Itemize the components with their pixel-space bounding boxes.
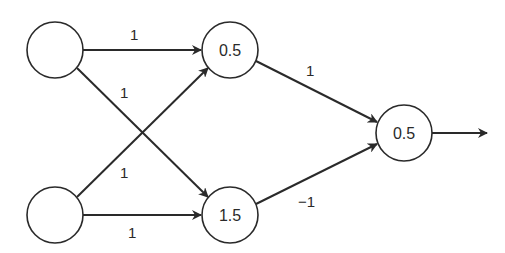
hidden-node-1-threshold: 0.5 — [219, 42, 241, 59]
neural-network-diagram: 1 1 1 1 1 −1 0.5 1.5 0.5 — [0, 0, 505, 253]
weight-label-in2-h2: 1 — [128, 224, 136, 241]
hidden-node-2-threshold: 1.5 — [219, 207, 241, 224]
hidden-node-2: 1.5 — [202, 187, 258, 243]
edge-h2-out — [256, 144, 377, 204]
output-node: 0.5 — [376, 105, 432, 161]
output-node-threshold: 0.5 — [393, 125, 415, 142]
weight-label-in2-h1: 1 — [120, 164, 128, 181]
weight-label-h2-out: −1 — [298, 193, 315, 210]
input-node-2 — [27, 187, 83, 243]
edge-h1-out — [256, 61, 377, 122]
weight-label-in1-h1: 1 — [130, 26, 138, 43]
weight-label-h1-out: 1 — [306, 62, 314, 79]
weight-label-in1-h2: 1 — [120, 84, 128, 101]
input-node-1 — [27, 22, 83, 78]
hidden-node-1: 0.5 — [202, 22, 258, 78]
